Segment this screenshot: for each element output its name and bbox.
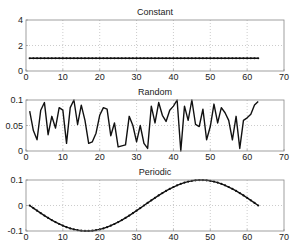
y-tick-label: 0 bbox=[18, 201, 23, 211]
data-point bbox=[36, 57, 38, 59]
data-point bbox=[176, 57, 178, 59]
data-point bbox=[250, 199, 252, 201]
x-tick-label: 60 bbox=[242, 72, 252, 82]
subplot-periodic: 010203040506070-0.100.1Periodic bbox=[7, 167, 289, 242]
data-point bbox=[161, 192, 163, 194]
data-point bbox=[209, 57, 211, 59]
data-point bbox=[150, 199, 152, 201]
data-point bbox=[121, 57, 123, 59]
data-point bbox=[102, 57, 104, 59]
x-tick-label: 50 bbox=[205, 152, 215, 162]
data-point bbox=[143, 204, 145, 206]
data-point bbox=[242, 57, 244, 59]
data-point bbox=[235, 190, 237, 192]
data-point bbox=[106, 226, 108, 228]
data-point bbox=[73, 57, 75, 59]
data-point bbox=[187, 57, 189, 59]
data-point bbox=[58, 57, 60, 59]
data-point bbox=[194, 57, 196, 59]
data-point bbox=[65, 57, 67, 59]
y-tick-label: 0.05 bbox=[5, 121, 23, 131]
x-tick-label: 40 bbox=[168, 72, 178, 82]
data-point bbox=[213, 57, 215, 59]
data-point bbox=[246, 57, 248, 59]
y-tick-label: 0.1 bbox=[10, 175, 23, 185]
data-point bbox=[117, 221, 119, 223]
data-point bbox=[51, 219, 53, 221]
x-tick-label: 60 bbox=[242, 152, 252, 162]
data-point bbox=[110, 57, 112, 59]
data-point bbox=[102, 227, 104, 229]
data-point bbox=[228, 186, 230, 188]
x-tick-label: 20 bbox=[95, 152, 105, 162]
data-point bbox=[58, 223, 60, 225]
data-point bbox=[36, 210, 38, 212]
data-point bbox=[257, 204, 259, 206]
data-point bbox=[43, 214, 45, 216]
data-point bbox=[84, 57, 86, 59]
data-point bbox=[172, 57, 174, 59]
x-tick-label: 0 bbox=[23, 72, 28, 82]
data-point bbox=[165, 190, 167, 192]
data-point bbox=[150, 57, 152, 59]
data-point bbox=[128, 214, 130, 216]
data-point bbox=[242, 194, 244, 196]
data-point bbox=[135, 210, 137, 212]
data-point bbox=[220, 57, 222, 59]
data-point bbox=[147, 202, 149, 204]
data-point bbox=[191, 57, 193, 59]
data-point bbox=[158, 194, 160, 196]
data-point bbox=[110, 225, 112, 227]
data-point bbox=[165, 57, 167, 59]
data-point bbox=[43, 57, 45, 59]
x-tick-label: 70 bbox=[279, 232, 289, 242]
x-tick-label: 10 bbox=[58, 232, 68, 242]
data-point bbox=[176, 184, 178, 186]
data-point bbox=[95, 57, 97, 59]
data-point bbox=[239, 57, 241, 59]
data-point bbox=[253, 202, 255, 204]
data-point bbox=[257, 57, 259, 59]
y-tick-label: 2 bbox=[18, 41, 23, 51]
data-point bbox=[124, 57, 126, 59]
data-point bbox=[231, 188, 233, 190]
data-point bbox=[231, 57, 233, 59]
x-tick-label: 70 bbox=[279, 72, 289, 82]
data-point bbox=[154, 197, 156, 199]
x-tick-label: 40 bbox=[168, 152, 178, 162]
data-point bbox=[47, 57, 49, 59]
x-tick-label: 70 bbox=[279, 152, 289, 162]
data-point bbox=[32, 57, 34, 59]
data-point bbox=[91, 57, 93, 59]
x-tick-label: 30 bbox=[132, 72, 142, 82]
x-tick-label: 20 bbox=[95, 232, 105, 242]
data-point bbox=[106, 57, 108, 59]
data-point bbox=[213, 180, 215, 182]
data-point bbox=[29, 57, 31, 59]
y-tick-label: 0 bbox=[18, 66, 23, 76]
data-point bbox=[143, 57, 145, 59]
subplot-title: Periodic bbox=[139, 167, 172, 177]
data-point bbox=[147, 57, 149, 59]
data-point bbox=[132, 212, 134, 214]
x-tick-label: 0 bbox=[23, 152, 28, 162]
data-point bbox=[69, 227, 71, 229]
data-point bbox=[217, 182, 219, 184]
data-point bbox=[246, 197, 248, 199]
data-point bbox=[54, 57, 56, 59]
subplot-random: 01020304050607000.050.1Random bbox=[5, 87, 289, 162]
x-tick-label: 40 bbox=[168, 232, 178, 242]
x-tick-label: 60 bbox=[242, 232, 252, 242]
data-point bbox=[172, 186, 174, 188]
data-point bbox=[158, 57, 160, 59]
x-tick-label: 50 bbox=[205, 232, 215, 242]
data-point bbox=[183, 57, 185, 59]
data-point bbox=[47, 217, 49, 219]
x-tick-label: 10 bbox=[58, 72, 68, 82]
data-point bbox=[99, 57, 101, 59]
data-point bbox=[113, 57, 115, 59]
data-point bbox=[180, 57, 182, 59]
data-point bbox=[69, 57, 71, 59]
y-tick-label: 0.1 bbox=[10, 95, 23, 105]
x-tick-label: 10 bbox=[58, 152, 68, 162]
